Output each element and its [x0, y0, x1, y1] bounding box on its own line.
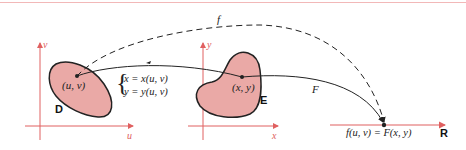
axis-label-u: u	[127, 131, 132, 141]
domain-point-label: (u, v)	[62, 80, 85, 91]
equation-y: y = y(u, v)	[124, 85, 168, 98]
equation-x: x = x(u, v)	[124, 72, 168, 85]
domain-label: D	[55, 104, 63, 115]
axis-label-y: y	[207, 40, 211, 50]
map-F-label: F	[312, 84, 319, 95]
axis-label-v: v	[43, 40, 47, 50]
map-f-label: f	[217, 14, 220, 25]
transformation-equations: x = x(u, v) y = y(u, v)	[124, 72, 168, 98]
result-label: f(u, v) = F(x, y)	[346, 128, 411, 139]
image-point-label: (x, y)	[232, 82, 255, 93]
change-of-variables-diagram: v u y x (u, v) D { x = x(u, v) y = y(u, …	[0, 0, 466, 150]
axis-label-x: x	[272, 131, 276, 141]
image-label: E	[260, 95, 267, 106]
range-label: R	[440, 128, 448, 139]
